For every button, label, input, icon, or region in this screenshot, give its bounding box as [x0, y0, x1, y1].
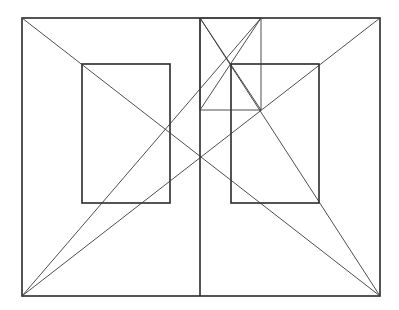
left-inner-rectangle: [82, 64, 170, 203]
diagonal-lines: [22, 18, 380, 296]
geometric-diagram: [0, 0, 399, 310]
diagonal-br-to-center-top: [200, 18, 380, 296]
diagonal-bl-to-square-top-right: [22, 18, 261, 296]
